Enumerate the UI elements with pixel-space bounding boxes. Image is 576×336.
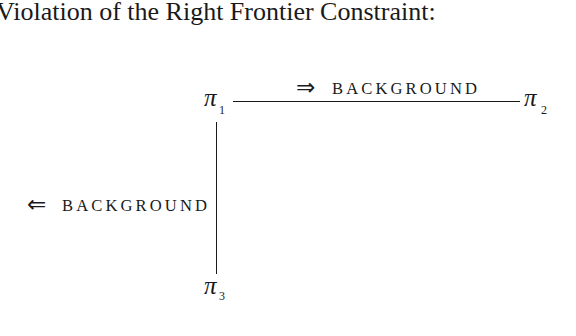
right-double-arrow-icon: ⇒ [296,76,315,99]
edge-label-horizontal: BACKGROUND [332,80,480,97]
node-pi2-subscript: 2 [541,104,547,116]
node-pi3-subscript: 3 [219,290,225,302]
edge-label-vertical: BACKGROUND [62,197,210,214]
node-pi1-subscript: 1 [219,104,225,116]
node-pi2: π [524,85,537,110]
diagram-title: Violation of the Right Frontier Constrai… [0,0,436,25]
node-pi1: π [204,85,217,110]
left-double-arrow-icon: ⇐ [27,193,46,216]
edge-pi1-pi2 [233,101,520,102]
edge-pi1-pi3 [216,122,217,274]
node-pi3: π [204,273,217,298]
